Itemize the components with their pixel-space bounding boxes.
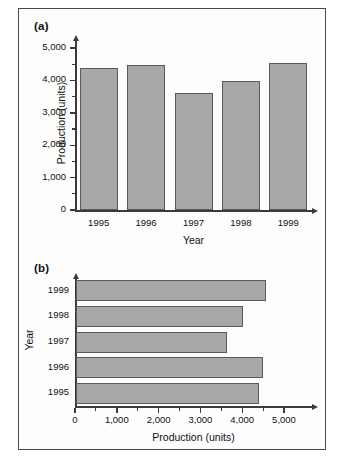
- panel-b-x-tick-minor: [137, 408, 138, 412]
- panel-a-y-axis: [75, 40, 77, 212]
- panel-a-x-axis-arrow: [312, 208, 318, 214]
- panel-b-bar: [76, 383, 259, 404]
- chart-panel-b: (b) 01,0002,0003,0004,0005,0001995199619…: [18, 256, 326, 450]
- panel-b-x-axis: [75, 406, 312, 408]
- panel-b-x-tick-major: [74, 408, 75, 413]
- panel-a-y-tick-major: [70, 80, 75, 81]
- panel-a-x-tick-label: 1995: [75, 217, 123, 228]
- panel-b-x-tick-label: 5,000: [260, 414, 308, 425]
- panel-a-y-tick-minor: [72, 64, 76, 65]
- panel-b-plot-area: 01,0002,0003,0004,0005,00019951996199719…: [18, 256, 326, 450]
- panel-b-y-axis-arrow: [73, 273, 79, 279]
- panel-a-y-axis-arrow: [73, 35, 79, 41]
- panel-a-y-tick-major: [70, 112, 75, 113]
- panel-b-x-tick-label: 2,000: [135, 414, 183, 425]
- panel-b-x-tick-major: [200, 408, 201, 413]
- panel-b-x-tick-label: 0: [51, 414, 99, 425]
- panel-b-x-tick-major: [158, 408, 159, 413]
- panel-a-y-tick-major: [70, 47, 75, 48]
- panel-b-bar: [76, 280, 266, 301]
- panel-a-y-tick-minor: [72, 161, 76, 162]
- panel-a-x-tick-label: 1996: [122, 217, 170, 228]
- panel-b-x-axis-title: Production (units): [75, 431, 312, 443]
- panel-b-x-tick-major: [116, 408, 117, 413]
- panel-a-bar: [175, 93, 213, 210]
- chart-panel-a: (a) 01,0002,0003,0004,0005,0001995199619…: [18, 8, 326, 256]
- panel-a-y-tick-major: [70, 209, 75, 210]
- panel-a-x-axis-title: Year: [75, 234, 312, 246]
- panel-a-bar: [127, 65, 165, 210]
- panel-b-x-tick-minor: [221, 408, 222, 412]
- panel-a-y-tick-major: [70, 145, 75, 146]
- panel-a-bar: [222, 81, 260, 210]
- panel-a-y-tick-minor: [72, 193, 76, 194]
- figure-page: (a) 01,0002,0003,0004,0005,0001995199619…: [0, 0, 338, 465]
- panel-b-bar: [76, 332, 227, 353]
- panel-a-x-tick-label: 1998: [217, 217, 265, 228]
- panel-b-x-tick-minor: [95, 408, 96, 412]
- panel-b-bar: [76, 357, 263, 378]
- panel-b-x-tick-major: [283, 408, 284, 413]
- panel-b-y-axis-title: Year: [23, 285, 35, 395]
- panel-b-x-tick-label: 3,000: [176, 414, 224, 425]
- panel-b-x-tick-major: [242, 408, 243, 413]
- panel-a-x-tick-label: 1999: [264, 217, 312, 228]
- panel-a-y-tick-major: [70, 177, 75, 178]
- panel-b-x-axis-arrow: [312, 404, 318, 410]
- panel-b-x-tick-label: 1,000: [93, 414, 141, 425]
- panel-a-x-axis: [75, 210, 312, 212]
- panel-a-y-tick-minor: [72, 128, 76, 129]
- panel-a-bar: [269, 63, 307, 210]
- panel-a-y-tick-minor: [72, 96, 76, 97]
- panel-b-bar: [76, 306, 243, 327]
- panel-a-x-tick-label: 1997: [170, 217, 218, 228]
- panel-a-bar: [80, 68, 118, 210]
- panel-b-x-tick-label: 4,000: [218, 414, 266, 425]
- panel-a-y-axis-title: Production (units): [55, 38, 67, 208]
- panel-b-x-tick-minor: [263, 408, 264, 412]
- panel-b-x-tick-minor: [179, 408, 180, 412]
